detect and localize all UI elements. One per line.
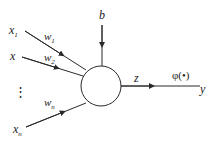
- bias-label: b: [99, 8, 105, 22]
- output-label: y: [199, 82, 206, 96]
- input-n-arrow-icon: [26, 112, 63, 127]
- input-n: xn wn: [12, 96, 86, 138]
- neuron-node: [81, 66, 121, 106]
- input-2-label: x: [9, 49, 16, 63]
- input-n-label: xn: [12, 122, 22, 138]
- sum-label: z: [133, 71, 139, 85]
- input-2: x w2: [9, 49, 83, 76]
- output: z φ(•) y: [121, 69, 206, 96]
- weight-1-label: w1: [44, 30, 55, 45]
- ellipsis-icon: ⋮: [14, 84, 27, 99]
- bias: b: [99, 8, 105, 66]
- neuron-diagram: x1 w1 x w2 ⋮ xn wn b z φ(•) y: [0, 0, 220, 142]
- weight-2-label: w2: [44, 51, 55, 66]
- weight-n-label: wn: [44, 96, 55, 111]
- input-1-label: x1: [8, 23, 18, 39]
- activation-label: φ(•): [172, 69, 190, 82]
